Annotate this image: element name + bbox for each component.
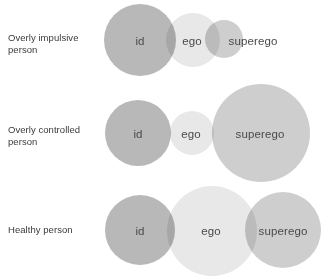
circle-label-id: id <box>133 128 142 140</box>
circle-label-ego: ego <box>181 128 201 140</box>
circle-label-id: id <box>135 35 144 47</box>
circle-label-superego: superego <box>259 225 308 237</box>
row-caption: Healthy person <box>8 224 73 236</box>
circle-label-superego: superego <box>229 35 278 47</box>
circle-label-id: id <box>135 225 144 237</box>
row-caption: Overly controlled person <box>8 124 80 147</box>
circle-label-ego: ego <box>201 225 221 237</box>
personality-structure-diagram: idegosuperegoOverly impulsive personideg… <box>0 0 325 279</box>
circle-label-ego: ego <box>182 35 202 47</box>
circle-label-superego: superego <box>236 128 285 140</box>
row-caption: Overly impulsive person <box>8 32 78 55</box>
